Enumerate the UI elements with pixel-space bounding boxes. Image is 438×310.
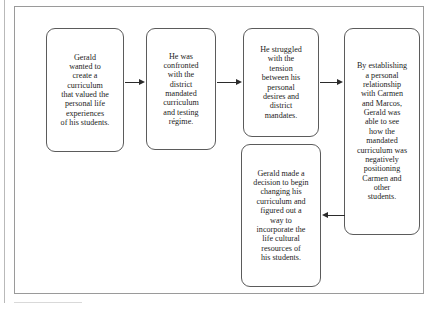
flowchart-node-1-label: Gerald wanted to create a curriculum tha… [51, 53, 119, 128]
flowchart-node-2-label: He was confronted with the district mand… [151, 52, 211, 127]
connector-line-node4-node5 [328, 215, 345, 216]
bottom-rule-line [14, 302, 82, 303]
arrow-head-icon-node2-node3 [236, 79, 242, 85]
flowchart-node-3[interactable]: He struggled with the tension between hi… [243, 28, 319, 137]
flowchart-node-2[interactable]: He was confronted with the district mand… [146, 28, 216, 150]
flowchart-node-1[interactable]: Gerald wanted to create a curriculum tha… [46, 28, 124, 152]
page-gutter-line [4, 0, 5, 303]
figure-page: Gerald wanted to create a curriculum tha… [0, 0, 438, 310]
flowchart-node-5[interactable]: Gerald made a decision to begin changing… [241, 144, 321, 287]
arrow-head-icon-node4-node5 [322, 212, 328, 218]
flowchart-node-4-label: By establishing a personal relationship … [349, 61, 415, 202]
flowchart-node-4[interactable]: By establishing a personal relationship … [344, 28, 420, 235]
arrow-head-icon-node1-node2 [139, 79, 145, 85]
arrow-head-icon-node3-node4 [337, 79, 343, 85]
flowchart-node-5-label: Gerald made a decision to begin changing… [246, 169, 316, 263]
flowchart-node-3-label: He struggled with the tension between hi… [248, 45, 314, 120]
connector-line-node3-node4 [320, 82, 337, 83]
figure-frame: Gerald wanted to create a curriculum tha… [14, 6, 424, 294]
connector-line-node2-node3 [217, 82, 236, 83]
connector-line-node1-node2 [125, 82, 140, 83]
